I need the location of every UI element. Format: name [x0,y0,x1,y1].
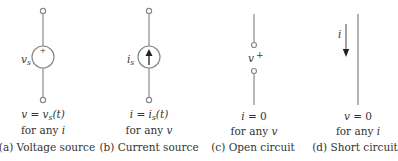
current-source-condition: for any v [126,124,173,136]
short-circuit-symbol [343,14,358,105]
current-source-equation: i = is(t) [130,108,168,124]
open-circuit-caption: (c) Open circuit [211,141,295,153]
short-circuit-current-label: i [338,28,341,40]
open-circuit-equation: i = 0 [241,110,267,122]
current-source-label: is [127,53,134,69]
voltage-source-condition: for any i [21,124,65,136]
short-circuit-caption: (d) Short circuit [312,141,398,153]
short-circuit-equation: v = 0 [344,110,372,122]
short-circuit-condition: for any i [336,125,380,137]
plus-sign: + [40,45,47,57]
bottom-terminal [40,97,45,102]
current-source-caption: (b) Current source [99,141,198,153]
top-terminal [146,8,151,13]
top-terminal [40,8,45,13]
bottom-terminal [146,97,151,102]
open-circuit-condition: for any v [231,125,278,137]
plus-sign: + [256,49,264,61]
voltage-source-caption: (a) Voltage source [0,141,95,153]
current-source-symbol [138,8,160,102]
upper-terminal [252,43,257,48]
open-circuit-voltage-label: v [248,52,254,64]
lower-terminal [252,69,257,74]
voltage-source-equation: v = vs(t) [21,108,65,124]
voltage-source-label: vs [21,53,31,69]
